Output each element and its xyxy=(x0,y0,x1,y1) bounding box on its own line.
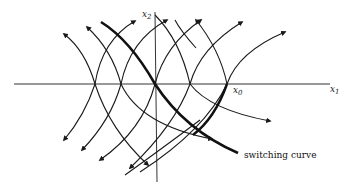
x2-axis-label: x2 xyxy=(142,9,152,21)
trajectory-b3 xyxy=(155,20,201,84)
x1-axis-label: x1 xyxy=(330,84,340,96)
trajectory-b5 xyxy=(227,32,285,84)
trajectories-family-a xyxy=(64,15,227,172)
switching-curve-upper-branch xyxy=(193,84,227,135)
trajectory-a1-lower xyxy=(64,84,95,140)
trajectory-b4 xyxy=(190,22,242,84)
trajectory-a6 xyxy=(175,20,196,48)
trajectory-b3-lower xyxy=(190,84,270,121)
trajectory-a5-lower xyxy=(140,84,227,172)
trajectory-a2-lower xyxy=(82,84,121,150)
x0-point-label: x0 xyxy=(233,85,243,97)
trajectory-a1 xyxy=(64,34,95,84)
trajectory-a5 xyxy=(196,20,227,84)
switching-curve xyxy=(101,22,238,153)
x2-axis xyxy=(155,12,157,182)
trajectory-b1 xyxy=(95,21,135,84)
phase-plane-diagram: x2 x1 x0 switching curve xyxy=(0,0,348,188)
trajectory-a4 xyxy=(155,15,190,84)
trajectory-a4-lower xyxy=(130,84,190,168)
switching-curve-label: switching curve xyxy=(244,150,317,160)
trajectory-b2 xyxy=(121,20,167,84)
trajectory-b0-lower xyxy=(125,120,200,175)
